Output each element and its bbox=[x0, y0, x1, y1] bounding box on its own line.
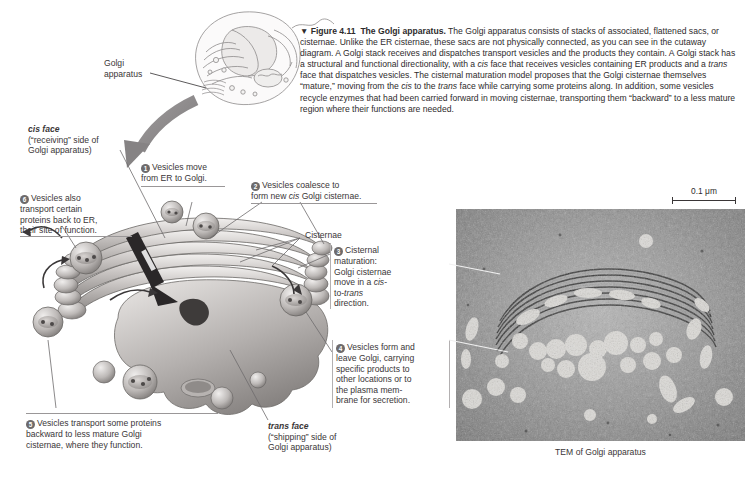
step-4-rule-right bbox=[449, 340, 450, 408]
step-4-rule bbox=[332, 340, 333, 408]
step-6-line-4: their site of function. bbox=[20, 225, 140, 236]
step-1-bullet: 1 bbox=[141, 164, 150, 173]
step-3-label: 3Cisternal maturation: Golgi cisternae m… bbox=[334, 245, 398, 309]
step-6-bullet: 6 bbox=[20, 195, 29, 204]
step-4-line-2: leave Golgi, carrying bbox=[336, 353, 446, 364]
figure-caption: ▼ Figure 4.11 The Golgi apparatus. The G… bbox=[300, 26, 740, 115]
scale-bar: 0.1 μm bbox=[672, 186, 736, 204]
step-1-underline bbox=[141, 186, 225, 187]
step-3-line-3: Golgi cisternae bbox=[334, 267, 398, 278]
step-5-label: 5Vesicles transport some proteins backwa… bbox=[26, 418, 241, 450]
step-3-line-4: move in a cis- bbox=[334, 277, 398, 288]
cis-face-label: cis face (“receiving” side of Golgi appa… bbox=[28, 124, 153, 156]
step-4-line-5: the plasma mem- bbox=[336, 385, 446, 396]
cis-face-detail-2: Golgi apparatus) bbox=[28, 145, 153, 156]
step-6-label: 6Vesicles also transport certain protein… bbox=[20, 193, 140, 236]
step-2-label: 2Vesicles coalesce to form new cis Golgi… bbox=[251, 180, 381, 202]
step-2-line-2: form new cis Golgi cisternae. bbox=[251, 191, 381, 202]
step-2-line-1: Vesicles coalesce to bbox=[262, 180, 339, 190]
cis-face-detail-1: (“receiving” side of bbox=[28, 135, 153, 146]
trans-face-detail-2: Golgi apparatus) bbox=[268, 442, 398, 453]
trans-face-detail-1: (“shipping” side of bbox=[268, 432, 398, 443]
cell-golgi-callout-line1: Golgi bbox=[104, 58, 164, 69]
scale-bar-label: 0.1 μm bbox=[672, 186, 736, 196]
figure-root: ▼ Figure 4.11 The Golgi apparatus. The G… bbox=[0, 0, 749, 477]
cell-golgi-callout-line2: apparatus bbox=[104, 69, 164, 80]
figure-number: Figure 4.11 bbox=[311, 26, 356, 36]
step-1-line-1: Vesicles move bbox=[152, 162, 207, 172]
step-4-line-6: brane for secretion. bbox=[336, 395, 446, 406]
cis-face-name: cis face bbox=[28, 124, 60, 134]
figure-title: The Golgi apparatus. bbox=[360, 26, 445, 36]
step-3-line-6: direction. bbox=[334, 298, 398, 309]
trans-face-label: trans face (“shipping” side of Golgi app… bbox=[268, 421, 398, 453]
step-3-line-5: to-trans bbox=[334, 288, 398, 299]
step-4-line-4: other locations or to bbox=[336, 374, 446, 385]
step-5-line-1: Vesicles transport some proteins bbox=[37, 418, 161, 428]
step-6-line-1: Vesicles also bbox=[31, 193, 81, 203]
cisternae-label: Cisternae bbox=[305, 230, 342, 241]
caption-marker: ▼ bbox=[300, 26, 308, 36]
trans-face-name: trans face bbox=[268, 421, 309, 431]
step-5-line-3: cisternae, where they function. bbox=[26, 440, 241, 451]
step-4-bullet: 4 bbox=[336, 344, 345, 353]
tem-caption: TEM of Golgi apparatus bbox=[456, 447, 745, 457]
step-3-bullet: 3 bbox=[334, 247, 343, 256]
step-6-underline bbox=[20, 236, 132, 237]
step-6-line-3: proteins back to ER, bbox=[20, 215, 140, 226]
step-1-label: 1Vesicles move from ER to Golgi. bbox=[141, 162, 241, 184]
tem-micrograph bbox=[456, 209, 745, 441]
step-1-line-2: from ER to Golgi. bbox=[141, 173, 241, 184]
figure-caption-body: The Golgi apparatus consists of stacks o… bbox=[300, 26, 735, 114]
step-4-label: 4Vesicles form and leave Golgi, carrying… bbox=[336, 342, 446, 406]
step-3-line-2: maturation: bbox=[334, 256, 398, 267]
step-4-line-3: specific products to bbox=[336, 364, 446, 375]
step-2-bullet: 2 bbox=[251, 182, 260, 191]
tem-micrograph-image bbox=[456, 209, 745, 441]
step-5-bullet: 5 bbox=[26, 420, 35, 429]
step-3-rule bbox=[330, 243, 331, 309]
step-5-line-2: backward to less mature Golgi bbox=[26, 429, 241, 440]
step-2-underline bbox=[251, 203, 377, 204]
step-6-line-2: transport certain bbox=[20, 204, 140, 215]
scale-bar-graphic bbox=[672, 197, 736, 204]
step-3-line-1: Cisternal bbox=[345, 245, 379, 255]
step-4-line-1: Vesicles form and bbox=[347, 342, 415, 352]
cell-golgi-callout: Golgi apparatus bbox=[104, 58, 164, 79]
step-5-overline bbox=[26, 413, 218, 414]
